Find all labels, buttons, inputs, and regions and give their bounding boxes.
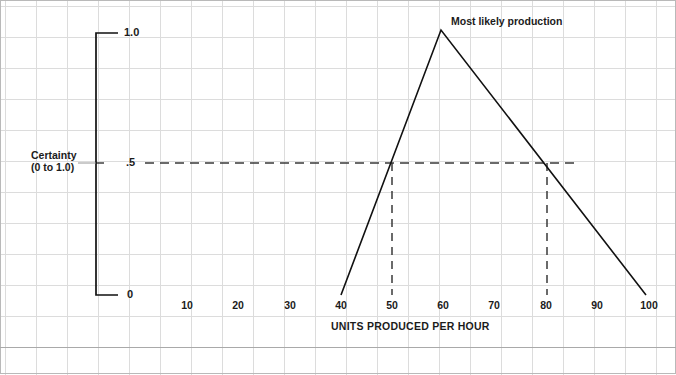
y-axis-label: Certainty (0 to 1.0) — [31, 149, 77, 174]
y-axis-bracket — [96, 33, 118, 295]
x-tick-label-70: 70 — [488, 299, 500, 311]
x-tick-label-90: 90 — [591, 299, 603, 311]
y-tick-label-0: 0 — [127, 288, 133, 301]
x-axis-title: UNITS PRODUCED PER HOUR — [331, 320, 490, 332]
plot-layer — [0, 0, 676, 375]
y-axis-label-main: Certainty — [31, 149, 77, 161]
x-tick-label-10: 10 — [181, 299, 193, 311]
x-tick-label-100: 100 — [640, 299, 658, 311]
x-tick-label-80: 80 — [540, 299, 552, 311]
y-axis-label-range: (0 to 1.0) — [31, 161, 77, 173]
peak-annotation-label: Most likely production — [451, 15, 562, 27]
x-tick-label-40: 40 — [335, 299, 347, 311]
y-tick-label-half: .5 — [126, 156, 135, 169]
chart-canvas: Certainty (0 to 1.0) 1.0 .5 0 10 20 30 4… — [0, 0, 676, 375]
x-tick-label-60: 60 — [437, 299, 449, 311]
x-tick-label-30: 30 — [284, 299, 296, 311]
x-tick-label-20: 20 — [232, 299, 244, 311]
y-tick-label-1: 1.0 — [124, 26, 139, 39]
x-tick-label-50: 50 — [386, 299, 398, 311]
